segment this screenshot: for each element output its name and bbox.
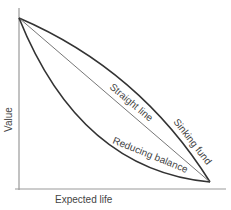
- straight-line-curve: [19, 18, 210, 182]
- depreciation-diagram: Value Expected life Straight line Sinkin…: [0, 0, 231, 210]
- straight-line-label: Straight line: [108, 81, 156, 124]
- y-axis-label: Value: [3, 107, 14, 132]
- x-axis-label: Expected life: [55, 194, 113, 205]
